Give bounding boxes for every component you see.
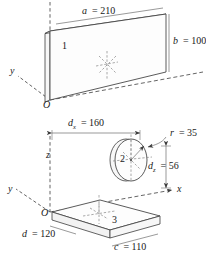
plate-body-3 — [52, 200, 160, 238]
dimension-dx-label: dx = 160 — [68, 118, 104, 131]
dimension-d-label: d = 120 — [22, 229, 55, 239]
upper-origin-label: O — [43, 100, 50, 110]
body-1-label: 1 — [62, 41, 67, 51]
dimension-c-label: c = 110 — [114, 242, 146, 252]
dimension-a-label: a = 210 — [82, 6, 115, 16]
dimension-b-label: b = 100 — [173, 36, 206, 46]
upper-y-axis-label: y — [10, 66, 14, 76]
body-2-label: 2 — [120, 154, 125, 164]
leader-r — [148, 137, 166, 147]
engineering-diagram: a = 210 b = 100 1 y O dx = 160 r = 35 z … — [0, 0, 206, 257]
lower-z-axis-label: z — [46, 150, 50, 160]
disc-body-2 — [110, 139, 147, 181]
upper-diagram — [18, 2, 203, 102]
lower-origin-label: O — [41, 208, 48, 218]
dimension-dx — [52, 130, 140, 140]
dimension-r-label: r = 35 — [170, 128, 197, 138]
lower-y-axis-label: y — [8, 184, 12, 194]
lower-x-axis-label: x — [177, 184, 181, 194]
plate-body-1 — [45, 14, 166, 102]
dimension-dz-label: dz = 56 — [148, 161, 179, 174]
body-3-label: 3 — [112, 215, 117, 225]
